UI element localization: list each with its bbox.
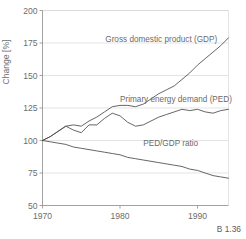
series-line-0	[43, 38, 229, 141]
y-tick-label-50: 50	[28, 201, 38, 211]
series-label-1: Primary energy demand (PED)	[120, 95, 232, 104]
y-tick-label-100: 100	[23, 136, 38, 146]
figure-number: B 1.36	[217, 224, 242, 234]
y-axis-title: Change [%]	[1, 40, 11, 85]
y-tick-label-75: 75	[28, 168, 38, 178]
y-axis-title-text: Change [%]	[1, 40, 11, 85]
y-tick-label-175: 175	[23, 38, 38, 48]
series-label-0: Gross domestic product (GDP)	[105, 35, 217, 44]
y-tick-label-150: 150	[23, 71, 38, 81]
chart-canvas: 5075100125150175200 197019801990 Gross d…	[0, 0, 246, 239]
series-line-1	[43, 109, 229, 140]
figure-container: 5075100125150175200 197019801990 Gross d…	[0, 0, 246, 239]
x-tick-label-1990: 1990	[188, 211, 207, 221]
series-label-2: PED/GDP ratio	[143, 139, 198, 148]
x-tick-label-1980: 1980	[110, 211, 129, 221]
figure-number-text: B 1.36	[217, 224, 242, 234]
y-tick-label-200: 200	[23, 6, 38, 16]
y-tick-label-125: 125	[23, 103, 38, 113]
series-line-2	[43, 141, 229, 179]
y-axis-ticks: 5075100125150175200	[23, 6, 42, 211]
x-axis-ticks: 197019801990	[33, 206, 207, 221]
x-tick-label-1970: 1970	[33, 211, 52, 221]
